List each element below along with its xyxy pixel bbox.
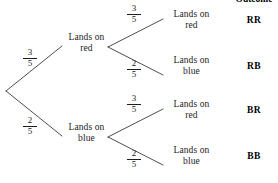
probability-blue-to-red-numerator: 3	[127, 94, 141, 105]
outcome-rb: RB	[232, 61, 276, 71]
probability-blue-to-blue-numerator: 2	[127, 149, 141, 160]
probability-root-red-numerator: 3	[23, 48, 37, 59]
probability-root-red-denominator: 5	[23, 59, 37, 69]
leaf-blue-blue: Lands on blue	[167, 145, 216, 166]
probability-red-to-blue-numerator: 2	[127, 59, 141, 70]
column-header-outcome-label: Outcome	[236, 0, 273, 4]
node-level1-red-line1: Lands on	[62, 32, 111, 43]
node-level1-blue: Lands on blue	[62, 122, 111, 143]
node-level1-blue-line2: blue	[62, 133, 111, 144]
leaf-blue-red-line2: red	[167, 110, 216, 121]
leaf-red-red-line1: Lands on	[167, 9, 216, 20]
leaf-blue-blue-line1: Lands on	[167, 145, 216, 156]
probability-blue-to-blue: 2 5	[127, 149, 141, 169]
probability-blue-to-blue-denominator: 5	[127, 160, 141, 170]
leaf-red-blue-line1: Lands on	[167, 55, 216, 66]
column-header-outcome: Outcome	[232, 0, 276, 4]
leaf-blue-red-line1: Lands on	[167, 99, 216, 110]
outcome-bb: BB	[232, 151, 276, 161]
node-level1-red-line2: red	[62, 43, 111, 54]
leaf-red-blue: Lands on blue	[167, 55, 216, 76]
probability-blue-to-red: 3 5	[127, 94, 141, 114]
probability-root-blue-denominator: 5	[23, 127, 37, 137]
leaf-red-blue-line2: blue	[167, 66, 216, 77]
leaf-blue-red: Lands on red	[167, 99, 216, 120]
probability-root-blue-numerator: 2	[23, 116, 37, 127]
probability-red-to-blue-denominator: 5	[127, 70, 141, 80]
node-level1-red: Lands on red	[62, 32, 111, 53]
probability-root-blue: 2 5	[23, 116, 37, 136]
probability-root-red: 3 5	[23, 48, 37, 68]
outcome-br: BR	[232, 105, 276, 115]
leaf-blue-blue-line2: blue	[167, 156, 216, 167]
probability-red-to-blue: 2 5	[127, 59, 141, 79]
probability-tree-diagram: Outcome 3 5 2 5 Lands on red Lands on bl…	[0, 0, 278, 183]
probability-red-to-red-numerator: 3	[127, 4, 141, 15]
outcome-rr: RR	[232, 15, 276, 25]
probability-blue-to-red-denominator: 5	[127, 105, 141, 115]
probability-red-to-red-denominator: 5	[127, 15, 141, 25]
leaf-red-red-line2: red	[167, 20, 216, 31]
probability-red-to-red: 3 5	[127, 4, 141, 24]
node-level1-blue-line1: Lands on	[62, 122, 111, 133]
leaf-red-red: Lands on red	[167, 9, 216, 30]
